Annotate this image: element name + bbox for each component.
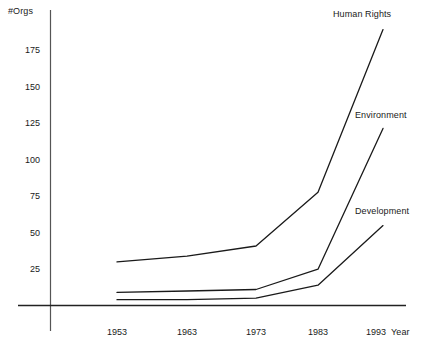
y-tick-label-150: 150: [8, 82, 40, 92]
y-axis-title: #Orgs: [8, 6, 33, 16]
y-tick-label-50: 50: [8, 228, 40, 238]
series-label-development: Development: [355, 206, 409, 216]
chart-plot-area: [0, 0, 423, 350]
x-tick-label-1953: 1953: [97, 327, 137, 337]
series-line-development: [117, 226, 383, 300]
y-tick-label-25: 25: [8, 264, 40, 274]
x-tick-label-1983: 1983: [298, 327, 338, 337]
y-tick-label-100: 100: [8, 155, 40, 165]
y-tick-label-75: 75: [8, 191, 40, 201]
y-tick-label-125: 125: [8, 118, 40, 128]
y-tick-label-175: 175: [8, 45, 40, 55]
x-tick-label-1963: 1963: [167, 327, 207, 337]
series-label-environment: Environment: [355, 110, 407, 120]
series-line-human-rights: [117, 30, 383, 262]
x-tick-label-1993: 1993: [356, 327, 396, 337]
series-line-environment: [117, 128, 383, 292]
series-label-human-rights: Human Rights: [333, 9, 391, 19]
x-tick-label-1973: 1973: [236, 327, 276, 337]
chart-container: #Orgs Year 175 150 125 100 75 50 25 1953…: [0, 0, 423, 350]
